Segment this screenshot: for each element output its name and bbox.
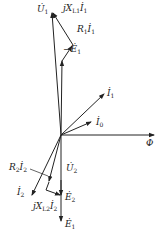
label-e2: Ė2 (65, 193, 75, 203)
label-jxl2i2: jXL2İ2 (33, 202, 57, 212)
label-r1i1: R1İ1 (77, 25, 95, 35)
label-u2: U̇2 (66, 164, 77, 174)
label-i2: İ2 (17, 188, 24, 198)
label-jxl1i1: jXL1İ1 (63, 4, 87, 14)
phasor-lines (0, 0, 159, 235)
label-phi: Φ (146, 139, 153, 148)
phasor-diagram: U̇1 jXL1İ1 R1İ1 −Ė1 İ1 İ0 Φ R2İ2 U̇2 İ2 … (0, 0, 159, 235)
label-e1: Ė1 (65, 220, 75, 230)
label-i1: İ1 (107, 89, 114, 99)
i2-phasor (32, 135, 61, 195)
label-minus-e1: −Ė1 (63, 45, 81, 55)
jxl1i1-phasor (53, 13, 73, 45)
minus-e1-phasor (61, 61, 62, 135)
label-i0: İ0 (96, 118, 103, 128)
i0-phasor (61, 122, 91, 135)
u1-phasor (52, 13, 61, 135)
i1-phasor (61, 94, 104, 135)
label-r2i2: R2İ2 (9, 163, 27, 173)
u2-phasor (49, 135, 61, 181)
label-u1: U̇1 (37, 5, 48, 15)
r2i2-leader (30, 169, 48, 176)
r2i2-phasor (46, 182, 49, 190)
jxl2i2-phasor (46, 190, 60, 195)
